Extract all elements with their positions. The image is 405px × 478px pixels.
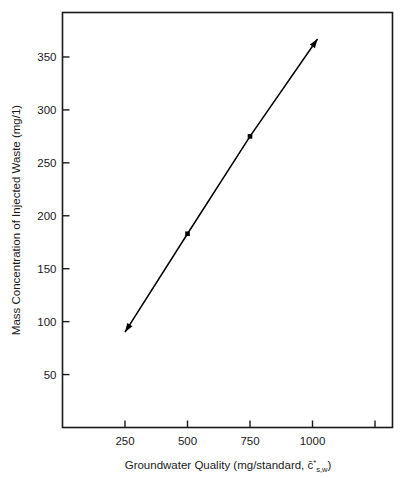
x-tick-label-500: 500 (178, 435, 197, 447)
y-tick-label-350: 350 (37, 51, 56, 63)
x-axis-title: Groundwater Quality (mg/standard, c̄*s,w… (125, 458, 332, 474)
y-axis-title: Mass Concentration of Injected Waste (mg… (10, 105, 22, 335)
y-tick-label-50: 50 (44, 369, 57, 381)
data-point-0-2 (248, 134, 253, 139)
x-axis-title-close: ) (327, 459, 331, 471)
chart-figure: 50100150200250300350 2505007501000 Mass … (0, 0, 405, 478)
x-tick-label-1000: 1000 (300, 435, 326, 447)
y-tick-label-150: 150 (37, 263, 56, 275)
data-point-0-1 (185, 231, 190, 236)
plot-frame (63, 13, 393, 428)
y-tick-label-250: 250 (37, 157, 56, 169)
y-tick-label-100: 100 (37, 316, 56, 328)
chart-canvas: 50100150200250300350 2505007501000 Mass … (0, 0, 405, 478)
y-tick-label-200: 200 (37, 210, 56, 222)
y-tick-label-300: 300 (37, 104, 56, 116)
x-tick-label-750: 750 (240, 435, 259, 447)
x-axis-title-subscript: s,w (316, 465, 328, 474)
x-axis-title-main: Groundwater Quality (mg/standard, (125, 459, 308, 471)
y-axis-tick-labels: 50100150200250300350 (37, 51, 56, 381)
x-axis-tick-labels: 2505007501000 (115, 435, 325, 447)
x-tick-label-250: 250 (115, 435, 134, 447)
